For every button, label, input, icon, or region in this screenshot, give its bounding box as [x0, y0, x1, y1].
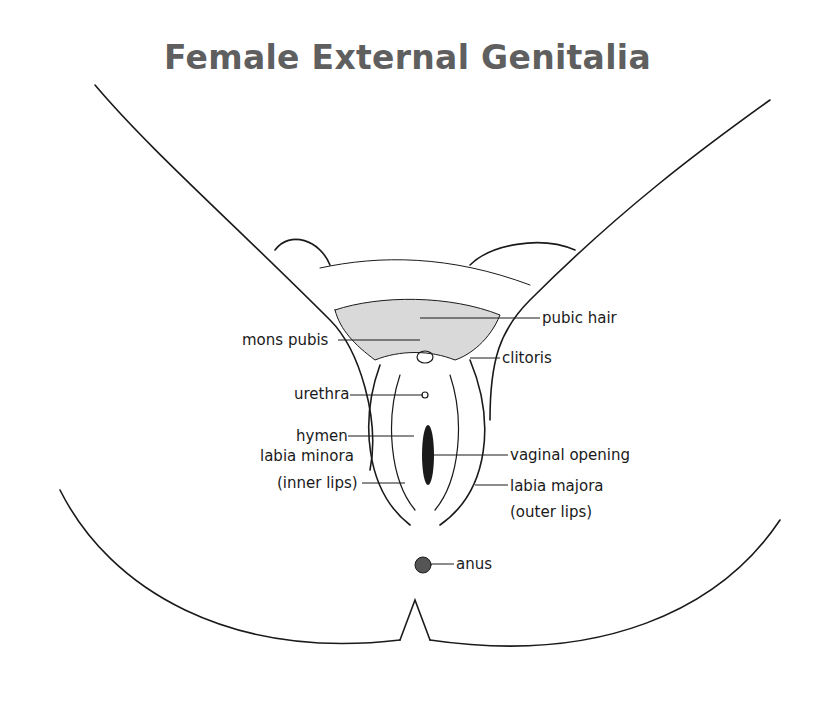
label-hymen: hymen	[296, 427, 348, 445]
label-labia-minora-sub: (inner lips)	[277, 474, 358, 492]
label-clitoris: clitoris	[502, 349, 552, 367]
label-urethra: urethra	[294, 385, 349, 403]
label-labia-majora-sub: (outer lips)	[510, 503, 592, 521]
label-vaginal-opening: vaginal opening	[510, 446, 630, 464]
label-labia-minora: labia minora	[260, 447, 354, 465]
label-mons-pubis: mons pubis	[242, 331, 328, 349]
label-pubic-hair: pubic hair	[542, 309, 617, 327]
label-labia-majora: labia majora	[510, 477, 604, 495]
anatomical-line-drawing	[0, 0, 815, 713]
label-anus: anus	[456, 555, 492, 573]
